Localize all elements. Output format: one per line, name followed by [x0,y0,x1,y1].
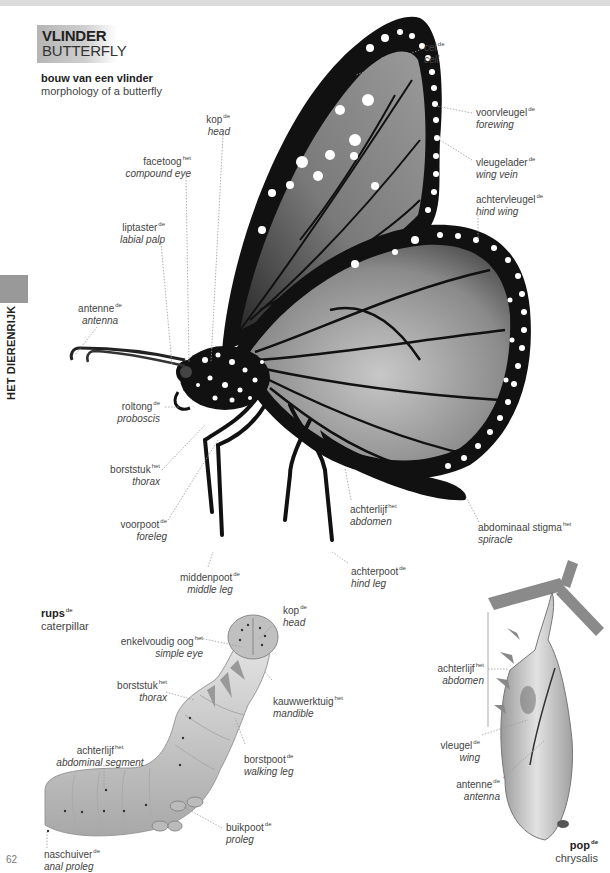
label-voorvleugel: voorvleugelde forewing [476,103,535,131]
label-kop: kopde head [200,110,230,138]
label-buikpoot: buikpootde proleg [226,818,272,846]
page-title-block: VLINDER BUTTERFLY [37,25,117,63]
chrysalis-heading: popde chrysalis [540,836,598,865]
label-enkelvoudig-oog: enkelvoudig ooghet simple eye [118,632,203,660]
label-voorpoot: voorpootde foreleg [110,515,167,543]
label-vleugelader: vleugeladerde wing vein [476,153,535,181]
butterfly-heading: bouw van een vlinder morphology of a but… [41,72,162,98]
label-vleugel: vleugelde wing [432,736,480,764]
label-roltong: roltongde proboscis [110,397,160,425]
page-number: 62 [6,854,17,865]
label-rups-borststuk: borststukhet thorax [115,676,167,704]
label-abdominal-segment: achterlijfhet abdominal segment [55,741,145,769]
section-tab-label: HET DIERENRIJK [5,306,17,400]
label-pop-antenne: antennede antenna [440,775,500,803]
page-title-en: BUTTERFLY [42,43,117,59]
label-rups-kop: kopde head [283,601,307,629]
butterfly-heading-en: morphology of a butterfly [41,85,162,98]
label-borstpoot: borstpootde walking leg [244,750,293,778]
label-pop-achterlijf: achterlijfhet abdomen [414,659,484,687]
label-achterlijf: achterlijfhet abdomen [350,500,397,528]
chrysalis-illustration [488,560,604,840]
label-facetoog: facetooghet compound eye [115,152,191,180]
label-achtervleugel: achtervleugelde hind wing [476,190,543,218]
label-achterpoot: achterpootde hind leg [351,562,406,590]
caterpillar-heading: rupsde caterpillar [41,604,89,633]
label-kauwwerktuig: kauwwerktuighet mandible [273,692,343,720]
label-middenpoot: middenpootde middle leg [175,568,245,596]
label-antenne: antennede antenna [75,299,125,327]
label-cel: celde cell [424,38,444,66]
label-liptaster: liptasterde labial palp [115,218,165,246]
label-naschuiver: naschuiverde anal proleg [44,845,100,873]
label-borststuk: borststukhet thorax [100,460,160,488]
page-title-nl: VLINDER [42,28,117,43]
label-abdominaal-stigma: abdominaal stigmahet spiracle [478,518,571,546]
section-tab-marker [0,275,28,303]
butterfly-heading-nl: bouw van een vlinder [41,72,162,85]
